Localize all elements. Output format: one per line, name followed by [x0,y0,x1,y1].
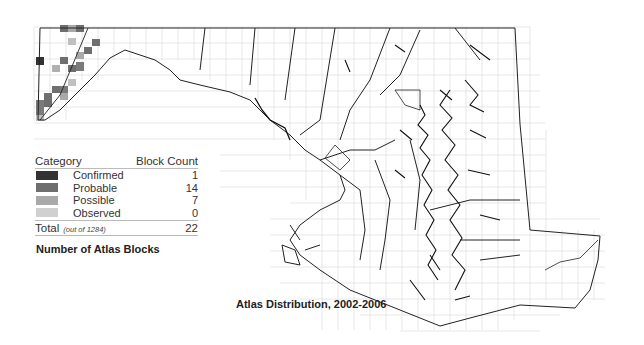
confirmed-swatch [36,171,58,180]
legend-label: Probable [73,182,186,194]
total-count: 22 [185,222,198,234]
observed-swatch [36,208,58,217]
legend-row-observed: Observed 0 [35,207,198,220]
legend-row-probable: Probable 14 [35,182,198,195]
legend-count: 1 [192,169,198,181]
legend-count: 14 [186,182,198,194]
legend-count: 0 [192,207,198,219]
legend-row-possible: Possible 7 [35,194,198,207]
legend: Category Block Count Confirmed 1 Probabl… [35,155,198,236]
total-note: (out of 1284) [63,225,106,234]
legend-header-category: Category [35,155,82,167]
legend-row-confirmed: Confirmed 1 [35,169,198,182]
chesapeake-shoreline [255,45,500,300]
legend-count: 7 [192,194,198,206]
possible-swatch [36,196,58,205]
legend-header-count: Block Count [136,155,198,167]
legend-total: Total(out of 1284) 22 [35,220,198,236]
total-label: Total [35,222,59,234]
legend-label: Confirmed [73,169,192,181]
occupied-blocks [36,25,100,121]
legend-label: Possible [73,194,192,206]
probable-swatch [36,183,58,192]
legend-header: Category Block Count [35,155,198,169]
legend-title: Number of Atlas Blocks [36,243,160,255]
legend-label: Observed [73,207,192,219]
map-title: Atlas Distribution, 2002-2006 [236,298,386,310]
